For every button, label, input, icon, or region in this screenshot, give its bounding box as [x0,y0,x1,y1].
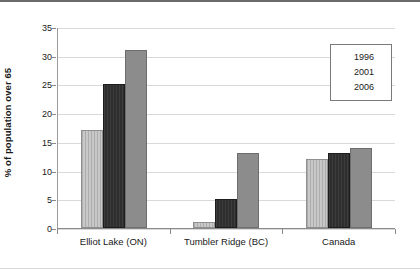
y-axis-tick-label: 5 [26,195,52,205]
x-axis-tick-label: Canada [322,236,355,247]
y-axis-tick-mark [52,57,56,58]
bar [215,199,237,228]
y-axis-tick-mark [52,143,56,144]
bar [193,222,215,228]
bar [81,130,103,228]
legend-swatch-icon [337,52,348,63]
y-axis-tick-label: 35 [26,23,52,33]
y-axis-title: % of population over 65 [0,2,16,242]
x-axis-tick-mark [170,229,171,234]
bar [125,50,147,228]
legend-item: 2006 [337,80,385,95]
bar [328,153,350,228]
x-axis-tick-marks [57,229,395,235]
y-axis-tick-label: 15 [26,138,52,148]
y-axis-tick-label: 20 [26,109,52,119]
legend-item-label: 2006 [354,82,374,93]
legend-item: 2001 [337,65,385,80]
x-axis-tick-mark [395,229,396,234]
legend-swatch-icon [337,82,348,93]
legend-item: 1996 [337,50,385,65]
legend-item-label: 1996 [354,52,374,63]
y-axis-tick-mark [52,28,56,29]
x-axis-tick-label: Tumbler Ridge (BC) [184,236,268,247]
legend-item-label: 2001 [354,67,374,78]
bar [237,153,259,228]
y-axis-tick-mark [52,85,56,86]
y-axis-tick-mark [52,229,56,230]
bar [350,148,372,228]
y-axis-tick-label: 10 [26,167,52,177]
y-axis-tick-label: 25 [26,80,52,90]
y-axis-tick-label: 0 [26,224,52,234]
x-axis-tick-mark [57,229,58,234]
bar-group [170,28,282,228]
y-axis-tick-mark [52,200,56,201]
y-axis-tick-mark [52,172,56,173]
y-axis-tick-mark [52,114,56,115]
legend: 199620012006 [330,44,392,101]
y-axis-tick-labels: 05101520253035 [22,28,52,229]
x-axis-tick-mark [282,229,283,234]
bar [306,159,328,228]
y-axis-title-label: % of population over 65 [3,67,14,176]
x-axis-tick-label: Elliot Lake (ON) [80,236,147,247]
y-axis-tick-label: 30 [26,52,52,62]
bar-group [58,28,170,228]
bar [103,84,125,228]
bar-chart-figure: % of population over 65 05101520253035 E… [0,0,420,269]
x-axis-tick-labels: Elliot Lake (ON)Tumbler Ridge (BC)Canada [57,236,395,252]
legend-swatch-icon [337,67,348,78]
